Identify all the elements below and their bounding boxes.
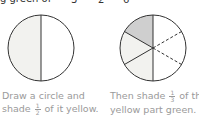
cropped-sentence: g green of (0, 0, 51, 4)
caption-1-line2: shade 12 of it yellow. (2, 102, 99, 116)
denominator-2: 2 (98, 0, 104, 5)
caption-2: Then shade 13 of the yellow part green. (110, 89, 199, 116)
header-text: g green of 3 2 6 (0, 0, 199, 7)
right-upper-dashed (153, 32, 182, 49)
caption-2-line2: yellow part green. (110, 103, 199, 116)
caption-2-line1: Then shade 13 of the (110, 89, 199, 103)
denominator-1: 3 (71, 0, 77, 5)
fraction-third: 13 (169, 90, 175, 103)
right-lower-dashed (153, 48, 182, 65)
caption-1: Draw a circle and shade 12 of it yellow. (2, 89, 99, 116)
denominator-3: 6 (123, 0, 129, 5)
yellow-half (8, 15, 41, 81)
sixths-circle-figure (118, 13, 188, 83)
half-circle-figure (6, 13, 76, 83)
fraction-half: 12 (35, 103, 41, 116)
caption-1-line1: Draw a circle and (2, 89, 99, 102)
